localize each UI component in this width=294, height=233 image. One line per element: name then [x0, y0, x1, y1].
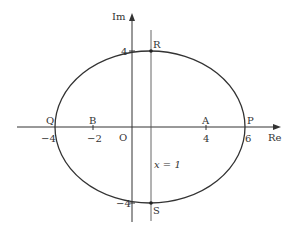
- label-p: P: [247, 115, 254, 126]
- tick-label-im-4: 4: [121, 46, 127, 57]
- im-axis-label: Im: [112, 11, 126, 22]
- label-b: B: [89, 115, 96, 126]
- origin-label: O: [119, 132, 127, 143]
- real-axis-arrow-icon: [273, 124, 281, 130]
- tick-label-6: 6: [245, 133, 251, 144]
- tick-label-neg4: −4: [41, 133, 56, 144]
- label-a: A: [201, 115, 210, 126]
- re-axis-label: Re: [268, 132, 282, 143]
- tick-label-neg2: −2: [87, 133, 102, 144]
- label-r: R: [153, 39, 161, 50]
- tick-label-im-neg4: −4: [116, 198, 131, 209]
- label-q: Q: [46, 115, 54, 126]
- tick-label-4: 4: [203, 133, 209, 144]
- imaginary-axis-arrow-icon: [129, 13, 135, 21]
- label-s: S: [153, 205, 160, 216]
- argand-diagram: Im Re O P Q A B R S −4 −2 4 6 4 −4 x = 1: [0, 0, 294, 233]
- line-label: x = 1: [154, 159, 181, 170]
